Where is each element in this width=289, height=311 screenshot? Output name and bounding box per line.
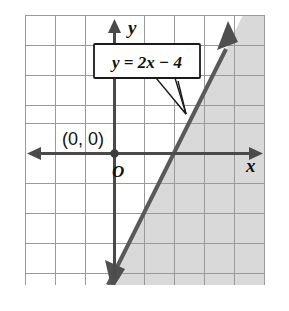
- callout-equation-text: y = 2x − 4: [110, 53, 182, 72]
- y-axis-label: y: [126, 17, 137, 38]
- origin-dot: [110, 149, 118, 157]
- origin-letter-label: O: [112, 162, 124, 181]
- x-axis-label: x: [245, 155, 256, 176]
- coordinate-plane-svg: y x O (0, 0) y = 2x − 4: [0, 0, 289, 311]
- equation-callout: y = 2x − 4: [94, 44, 200, 78]
- graph-figure: y x O (0, 0) y = 2x − 4: [0, 0, 289, 311]
- origin-point-label: (0, 0): [62, 129, 104, 149]
